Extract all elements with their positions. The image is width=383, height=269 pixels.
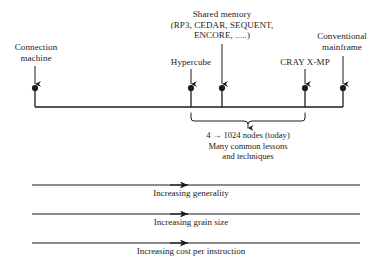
node-label-shared-memory: Shared memory (RP3, CEDAR, SEQUENT, ENCO…	[141, 9, 303, 41]
bracket-caption-line2: Many common lessons	[208, 141, 287, 151]
node-dot-conventional-mainframe[interactable]	[340, 85, 346, 91]
node-label-shared-memory-line1: Shared memory	[193, 9, 252, 19]
trend-label-grain-size: Increasing grain size	[96, 217, 286, 228]
trend-label-grain-size-text: Increasing grain size	[154, 217, 228, 227]
node-label-conventional-mainframe-line2: mainframe	[322, 42, 362, 52]
node-label-connection-machine-line1: Connection	[15, 42, 58, 52]
trend-label-cost-per-instruction-text: Increasing cost per instruction	[137, 246, 246, 256]
node-dot-shared-memory[interactable]	[219, 85, 225, 91]
node-label-cray-x-mp: CRAY X-MP	[269, 57, 341, 68]
bracket-caption-line3: and techniques	[222, 151, 273, 161]
trend-label-generality-text: Increasing generality	[153, 188, 229, 198]
node-label-shared-memory-line2: (RP3, CEDAR, SEQUENT,	[171, 20, 274, 30]
node-dot-connection-machine[interactable]	[32, 85, 38, 91]
node-label-conventional-mainframe: Conventional mainframe	[301, 31, 383, 52]
trend-label-cost-per-instruction: Increasing cost per instruction	[76, 246, 306, 257]
node-dot-cray-x-mp[interactable]	[302, 85, 308, 91]
node-label-hypercube: Hypercube	[157, 57, 225, 68]
trend-label-generality: Increasing generality	[96, 188, 286, 199]
bracket-caption: 4 → 1024 nodes (today) Many common lesso…	[168, 130, 328, 162]
node-label-connection-machine-line2: machine	[20, 53, 51, 63]
node-label-conventional-mainframe-line1: Conventional	[317, 31, 367, 41]
node-dots-group	[32, 85, 346, 91]
node-stems-group	[35, 89, 343, 107]
node-label-cray-x-mp-text: CRAY X-MP	[280, 57, 330, 67]
node-dot-hypercube[interactable]	[188, 85, 194, 91]
bracket-caption-line1: 4 → 1024 nodes (today)	[206, 130, 290, 140]
node-label-shared-memory-line3: ENCORE, .....)	[194, 30, 250, 40]
node-label-hypercube-text: Hypercube	[171, 57, 211, 67]
node-label-connection-machine: Connection machine	[0, 42, 72, 63]
figure-root: Connection machine Hypercube Shared memo…	[0, 0, 383, 269]
node-count-brace	[191, 113, 305, 128]
